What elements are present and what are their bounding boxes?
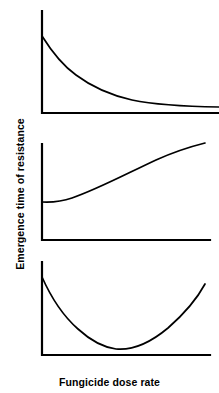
x-axis-label-container: Fungicide dose rate: [0, 372, 219, 390]
x-axis-label: Fungicide dose rate: [59, 376, 160, 388]
panel-3-axes: [42, 262, 210, 355]
chart-panel-3-plot: [38, 255, 219, 363]
panel-1-axes: [42, 11, 219, 113]
chart-panel-2-plot: [38, 138, 219, 248]
chart-panel-1: [38, 10, 219, 120]
panel-1-curve-monotonic-decline: [42, 36, 219, 107]
y-axis-label: Emergence time of resistance: [14, 118, 26, 270]
chart-panel-2: [38, 138, 219, 248]
chart-panel-1-plot: [38, 10, 219, 120]
chart-panel-3: [38, 255, 219, 363]
panel-2-curve-monotonic-increase: [42, 143, 205, 202]
panel-2-axes: [42, 144, 210, 240]
y-axis-label-container: Emergence time of resistance: [0, 0, 38, 393]
panel-3-curve-u-shaped: [42, 277, 205, 349]
figure-container: Emergence time of resistance Fungicide d…: [0, 0, 219, 393]
